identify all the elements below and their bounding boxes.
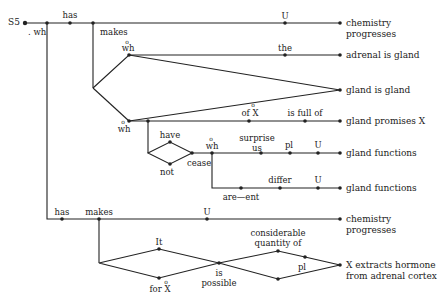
- edge-label-have: have: [160, 130, 180, 140]
- edge-label-pl: pl: [285, 140, 293, 150]
- edge-label-is-possible: is possible: [201, 268, 236, 288]
- edge-label-cease: cease: [187, 158, 211, 168]
- edge-label-U: U: [314, 140, 321, 150]
- edge-label-considerable-quantity-of: considerable quantity of: [250, 228, 305, 248]
- terminal-gland-functions: gland functions: [346, 148, 417, 159]
- edge-label-makes: makes: [100, 27, 128, 37]
- edge-label-has: has: [63, 10, 78, 20]
- terminal-x-extracts-hormone: X extracts hormone from adrenal cortex: [346, 260, 437, 282]
- edge-label-pl: pl: [298, 262, 306, 272]
- edge-label-wh: . wh: [28, 27, 46, 37]
- edge-label-U: U: [203, 207, 210, 217]
- edge-label-makes: makes: [85, 207, 113, 217]
- edge-label-is-full-of: is full of: [288, 108, 323, 118]
- start-label: S5: [8, 17, 20, 28]
- terminal-gland-promises-x: gland promises X: [346, 116, 425, 127]
- edge-label-differ: differ: [268, 175, 291, 185]
- edge-label-for-X: for X: [149, 284, 170, 294]
- edge-label-the: the: [278, 43, 292, 53]
- terminal-gland-functions: gland functions: [346, 183, 417, 194]
- edge-label-U: U: [314, 175, 321, 185]
- edge-label-U: U: [281, 11, 288, 21]
- edge-label-of-X: of X: [241, 108, 258, 118]
- terminal-chemistry-progresses: chemistry progresses: [346, 18, 396, 40]
- edge-label-not: not: [160, 167, 174, 177]
- edge-label-has: has: [55, 207, 70, 217]
- terminal-gland-is-gland: gland is gland: [346, 85, 410, 96]
- edge-label-wh-mid: wh: [118, 124, 131, 134]
- edge-label-wh-upper: wh: [122, 43, 135, 53]
- edge-label-It: It: [156, 237, 163, 247]
- terminal-adrenal-is-gland: adrenal is gland: [346, 50, 420, 61]
- terminal-chemistry-progresses: chemistry progresses: [346, 214, 396, 236]
- edge-label-wh-inner: wh: [206, 141, 219, 151]
- edge-label-surprise-us: surprise us: [239, 133, 275, 153]
- edge-label-are-ent: are—ent: [223, 192, 260, 202]
